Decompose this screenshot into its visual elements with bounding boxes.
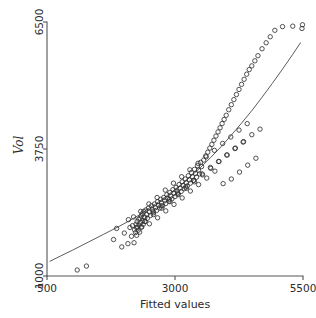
fitted-curve-group <box>50 43 300 261</box>
data-point <box>75 268 79 272</box>
data-point <box>180 196 184 200</box>
data-point <box>229 102 233 106</box>
data-point <box>129 234 133 238</box>
data-point <box>242 77 246 81</box>
data-point <box>222 117 226 121</box>
data-point <box>273 28 277 32</box>
data-point <box>210 142 214 146</box>
data-point <box>250 132 254 136</box>
data-point <box>280 24 284 28</box>
data-points-group <box>75 23 305 273</box>
data-point <box>232 97 236 101</box>
data-point <box>172 202 176 206</box>
data-point <box>224 113 228 117</box>
data-point <box>205 176 209 180</box>
data-point <box>239 82 243 86</box>
x-tick-label-500: 500 <box>37 282 57 294</box>
data-point <box>244 72 248 76</box>
data-point <box>229 177 233 181</box>
data-point <box>147 222 151 226</box>
data-point <box>111 237 115 241</box>
y-axis-title: Vol <box>12 136 26 155</box>
data-point <box>264 41 268 45</box>
data-point <box>163 188 167 192</box>
data-point <box>220 121 224 125</box>
data-point <box>237 128 241 132</box>
data-point <box>179 175 183 179</box>
axes-group <box>43 22 303 280</box>
data-point <box>227 108 231 112</box>
scatter-plot-figure: 10003750650050030005500Fitted valuesVol <box>0 0 316 318</box>
data-point <box>216 130 220 134</box>
data-point <box>214 134 218 138</box>
plot-canvas: 10003750650050030005500Fitted valuesVol <box>0 0 316 318</box>
data-point <box>260 47 264 51</box>
data-point <box>120 245 124 249</box>
data-point <box>171 181 175 185</box>
data-point <box>132 241 136 245</box>
data-point <box>268 35 272 39</box>
data-point <box>212 138 216 142</box>
data-point <box>256 54 260 58</box>
data-point <box>188 189 192 193</box>
x-axis-title: Fitted values <box>140 298 211 311</box>
data-point <box>84 264 88 268</box>
data-point <box>246 163 250 167</box>
data-point <box>122 231 126 235</box>
fitted-curve <box>50 43 300 261</box>
data-point <box>212 148 216 152</box>
data-point <box>245 121 249 125</box>
data-point <box>218 126 222 130</box>
axis-labels-group: 10003750650050030005500Fitted valuesVol <box>12 9 316 311</box>
data-point <box>155 195 159 199</box>
x-tick-label-3000: 3000 <box>162 282 189 294</box>
data-point <box>250 64 254 68</box>
data-point <box>206 150 210 154</box>
data-point <box>291 24 295 28</box>
y-tick-label-3750: 3750 <box>33 136 45 163</box>
data-point <box>164 209 168 213</box>
data-point <box>237 170 241 174</box>
y-tick-label-6500: 6500 <box>33 9 45 36</box>
data-point <box>234 92 238 96</box>
data-point <box>258 127 262 131</box>
data-point <box>237 87 241 91</box>
data-point <box>198 160 202 164</box>
data-point <box>196 182 200 186</box>
data-point <box>155 216 159 220</box>
data-point <box>254 156 258 160</box>
data-point <box>221 181 225 185</box>
data-point <box>126 241 130 245</box>
x-tick-label-5500: 5500 <box>290 282 316 294</box>
data-point <box>213 169 217 173</box>
data-point <box>253 59 257 63</box>
